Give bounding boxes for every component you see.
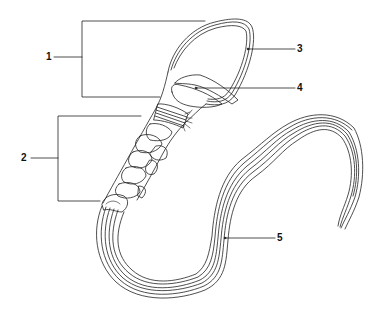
bracket-2 xyxy=(31,116,141,201)
sperm-cell-diagram xyxy=(0,0,378,329)
mitochondria xyxy=(115,123,172,198)
label-5: 5 xyxy=(277,233,283,243)
label-4: 4 xyxy=(297,83,303,93)
proximal-centriole xyxy=(154,104,192,131)
head-outline xyxy=(103,19,254,203)
label-1: 1 xyxy=(46,52,52,62)
label-3: 3 xyxy=(297,44,303,54)
label-2: 2 xyxy=(21,153,27,163)
nucleus xyxy=(171,75,238,107)
